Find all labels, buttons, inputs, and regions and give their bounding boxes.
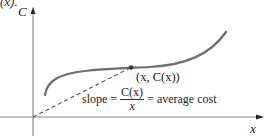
cost-curve-diagram — [0, 0, 266, 136]
slope-fraction: C(x) x — [120, 86, 144, 113]
x-axis-arrow-icon — [256, 115, 264, 120]
fraction-denominator: x — [129, 100, 134, 113]
slope-suffix: = average cost — [147, 92, 216, 107]
y-axis-label: C — [18, 4, 27, 20]
curve-point — [129, 65, 133, 69]
slope-prefix: slope = — [82, 92, 117, 107]
fraction-numerator: C(x) — [120, 86, 144, 100]
point-label: (x, C(x)) — [136, 70, 180, 85]
x-axis-label: x — [250, 121, 256, 136]
y-axis-arrow-icon — [31, 7, 36, 14]
slope-annotation: slope = C(x) x = average cost — [82, 86, 217, 113]
